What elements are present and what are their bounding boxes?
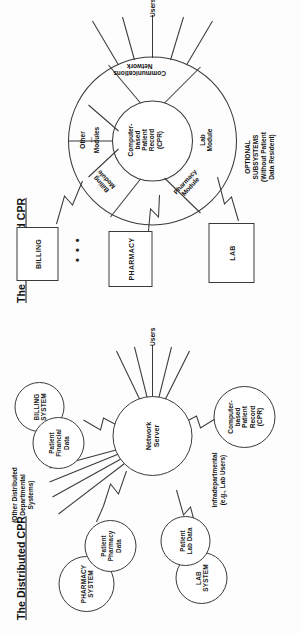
distributed-users-label: Users — [148, 328, 155, 346]
link-pharmacy-box-zigzag — [148, 195, 159, 231]
panel-centralized-cpr: The Centralized CPR — [0, 0, 301, 317]
c-users-fan-1 — [92, 21, 118, 65]
centralized-box-lab: LAB — [208, 223, 254, 283]
distributed-hub-network-server: Network Server — [112, 396, 192, 476]
distributed-node-patient-pharmacy-data-label: Patient Pharmacy Data — [98, 530, 122, 563]
centralized-box-pharmacy-label: PHARMACY — [127, 238, 134, 281]
distributed-node-patient-pharmacy-data: Patient Pharmacy Data — [84, 520, 136, 572]
distributed-node-patient-financial-data-label: Patient Financial Data — [46, 428, 70, 458]
centralized-core-label: Computer- based Patient Record (CPR) — [126, 109, 162, 171]
distributed-note-intradepartmental: Infradepartmental (e.g., Lab Users) — [210, 434, 226, 526]
centralized-ellipsis: • • • — [70, 237, 82, 262]
link-billing-box-zigzag — [56, 181, 82, 224]
centralized-box-lab-label: LAB — [228, 245, 235, 260]
distributed-node-cpr-label: Computer- based Patient Record (CPR) — [225, 399, 264, 434]
distributed-node-patient-lab-data-label: Patient Lab Data — [177, 527, 193, 556]
figure-page: The Distributed CPR — [0, 0, 301, 634]
figure-canvas: The Distributed CPR — [0, 0, 301, 634]
distributed-node-billing-system-label: BILLING SYSTEM — [31, 392, 47, 421]
lead-pharmacy — [96, 506, 103, 522]
centralized-box-pharmacy: PHARMACY — [108, 231, 152, 287]
distributed-node-patient-financial-data: Patient Financial Data — [32, 417, 84, 469]
link-pharmacy-zigzag — [103, 471, 126, 506]
link-lab-box-zigzag — [217, 177, 238, 221]
centralized-users-label: Users — [148, 0, 155, 17]
panel-distributed-cpr: The Distributed CPR — [0, 317, 301, 634]
distributed-hub-network-server-label: Network Server — [143, 421, 161, 451]
centralized-segment-other-modules: Other ... Modules — [78, 113, 99, 167]
users-fan-5 — [164, 351, 189, 401]
distributed-node-pharmacy-system-label: PHARMACY SYSTEM — [78, 564, 94, 605]
distributed-node-lab-system-label: LAB SYSTEM — [193, 563, 209, 592]
centralized-box-billing: BILLING — [16, 227, 58, 281]
users-fan-1 — [116, 351, 140, 401]
centralized-box-billing-label: BILLING — [34, 239, 41, 269]
centralized-segment-communications-network: Communications Network — [98, 63, 180, 77]
c-users-fan-5 — [186, 21, 212, 65]
centralized-note-optional-subsystems: OPTIONAL SUBSYSTEMS (Without Patient Dat… — [243, 109, 276, 205]
c-users-fan-2 — [122, 17, 134, 60]
c-users-fan-4 — [170, 17, 183, 60]
distributed-note-other-systems: (Other Distributed Departmental Systems) — [10, 452, 34, 538]
distributed-node-patient-lab-data: Patient Lab Data — [160, 516, 210, 566]
